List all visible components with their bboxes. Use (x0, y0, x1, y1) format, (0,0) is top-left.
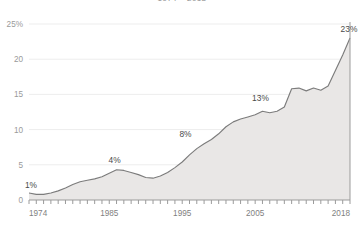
data-label: 23% (341, 24, 358, 34)
series-area (29, 38, 350, 200)
data-label: 1% (25, 180, 38, 190)
y-axis-label: 20 (14, 55, 24, 64)
chart-container: 1974 – 2018 25%20151050 1974198519952005… (0, 0, 364, 236)
y-axis-labels: 25%20151050 (7, 20, 24, 205)
area-chart: 25%20151050 19741985199520052018 1%4%8%1… (0, 0, 364, 236)
data-label: 4% (108, 155, 121, 165)
x-axis-label: 2005 (246, 209, 265, 218)
data-label: 13% (252, 93, 269, 103)
x-axis-labels: 19741985199520052018 (29, 209, 350, 218)
series-area-group (29, 38, 350, 200)
x-ticks-group (29, 200, 350, 204)
y-axis-label: 5 (18, 161, 23, 170)
data-label: 8% (179, 129, 192, 139)
x-axis-label: 1985 (100, 209, 119, 218)
x-axis-label: 1995 (173, 209, 192, 218)
x-axis-label: 2018 (332, 209, 351, 218)
y-axis-label: 10 (14, 126, 24, 135)
x-axis-label: 1974 (29, 209, 48, 218)
y-axis-label: 15 (14, 90, 24, 99)
y-axis-label: 25% (7, 20, 23, 29)
y-axis-label: 0 (18, 196, 23, 205)
